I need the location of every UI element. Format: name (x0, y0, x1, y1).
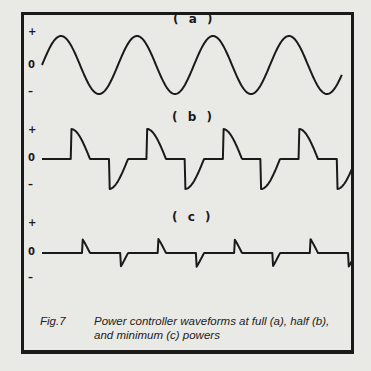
axis-plus-a: + (28, 27, 36, 37)
waveform-a-full-power (42, 36, 342, 94)
figure-caption: Fig.7Power controller waveforms at full … (40, 314, 329, 342)
axis-minus-b: – (28, 180, 33, 190)
axis-zero-b: 0 (28, 153, 35, 163)
figure-number: Fig.7 (40, 314, 94, 328)
axis-plus-b: + (28, 125, 36, 135)
axis-minus-c: – (28, 273, 33, 283)
axis-zero-a: 0 (28, 60, 35, 70)
axis-plus-c: + (28, 218, 36, 228)
caption-line-2: and minimum (c) powers (40, 328, 329, 342)
panel-label-c: ( c ) (172, 210, 213, 224)
waveform-b-half-power (42, 129, 352, 189)
panel-label-b: ( b ) (172, 110, 215, 124)
caption-line-1: Power controller waveforms at full (a), … (94, 315, 329, 327)
waveform-c-minimum-power (42, 239, 352, 267)
axis-minus-a: – (28, 87, 33, 97)
axis-zero-c: 0 (28, 247, 35, 257)
panel-label-a: ( a ) (173, 12, 215, 26)
